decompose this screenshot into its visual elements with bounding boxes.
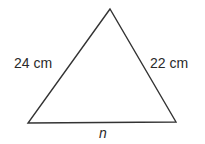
triangle-diagram: 24 cm 22 cm n bbox=[0, 0, 205, 144]
base-variable-label: n bbox=[99, 126, 107, 140]
right-side-length-label: 22 cm bbox=[150, 56, 188, 70]
triangle-shape bbox=[0, 0, 205, 144]
left-side-length-label: 24 cm bbox=[14, 56, 52, 70]
